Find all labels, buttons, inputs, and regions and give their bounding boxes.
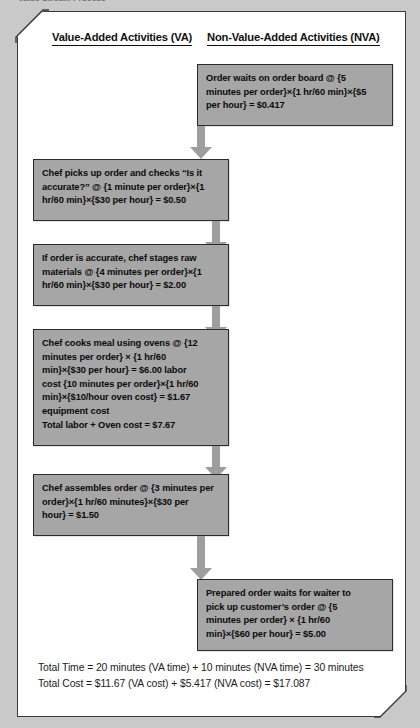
node-line: Order waits on order board @ {5 bbox=[206, 72, 385, 86]
node-line: accurate?” @ {1 minute per order}×{1 bbox=[42, 181, 221, 195]
node-line: min}×{$10/hour oven cost} = $1.67 bbox=[42, 391, 221, 405]
node-order-waits-on-board: Order waits on order board @ {5 minutes … bbox=[197, 64, 393, 126]
column-header-va: Value-Added Activities (VA) bbox=[52, 31, 192, 46]
summary-total-time: Total Time = 20 minutes (VA time) + 10 m… bbox=[38, 660, 364, 676]
node-line: minutes per order}×{1 hr/60 min}×{$5 bbox=[206, 86, 385, 100]
summary-totals: Total Time = 20 minutes (VA time) + 10 m… bbox=[38, 660, 364, 691]
diagram-caption: Value Stream Process bbox=[18, 0, 106, 3]
node-line: Chef assembles order @ {3 minutes per bbox=[42, 482, 221, 496]
node-chef-picks-up-order: Chef picks up order and checks “Is it ac… bbox=[33, 159, 229, 221]
node-line: materials @ {4 minutes per order}×{1 bbox=[42, 266, 221, 280]
node-line: hour} = $1.50 bbox=[42, 509, 221, 523]
node-line: hr/60 min}×{$30 per hour} = $0.50 bbox=[42, 194, 221, 208]
node-line: If order is accurate, chef stages raw bbox=[42, 252, 221, 266]
node-chef-assembles-order: Chef assembles order @ {3 minutes per or… bbox=[33, 474, 229, 536]
node-line: hr/60 min}×{$30 per hour} = $2.00 bbox=[42, 279, 221, 293]
node-chef-cooks-meal: Chef cooks meal using ovens @ {12 minute… bbox=[33, 329, 229, 446]
node-line: min}×{$60 per hour} = $5.00 bbox=[206, 628, 385, 642]
value-stream-diagram: Value Stream Process Value-Added Activit… bbox=[0, 0, 420, 728]
node-line: per hour} = $0.417 bbox=[206, 99, 385, 113]
node-line: minutes per order} × {1 hr/60 bbox=[42, 351, 221, 365]
node-line: Total labor + Oven cost = $7.67 bbox=[42, 419, 221, 433]
column-headers: Value-Added Activities (VA) Non-Value-Ad… bbox=[0, 31, 420, 53]
node-line: order}×{1 hr/60 minutes}×{$30 per bbox=[42, 496, 221, 510]
node-chef-stages-raw-materials: If order is accurate, chef stages raw ma… bbox=[33, 244, 229, 306]
node-line: Chef picks up order and checks “Is it bbox=[42, 167, 221, 181]
node-line: cost {10 minutes per order}×{1 hr/60 bbox=[42, 378, 221, 392]
node-line: Prepared order waits for waiter to bbox=[206, 587, 385, 601]
node-line: min}×{$30 per hour} = $6.00 labor bbox=[42, 364, 221, 378]
column-header-nva: Non-Value-Added Activities (NVA) bbox=[207, 31, 380, 46]
node-line: equipment cost bbox=[42, 405, 221, 419]
node-line: Chef cooks meal using ovens @ {12 bbox=[42, 337, 221, 351]
summary-total-cost: Total Cost = $11.67 (VA cost) + $5.417 (… bbox=[38, 676, 364, 692]
node-line: pick up customer’s order @ {5 bbox=[206, 601, 385, 615]
node-line: minutes per order} × {1 hr/60 bbox=[206, 614, 385, 628]
node-prepared-order-waits: Prepared order waits for waiter to pick … bbox=[197, 579, 393, 651]
